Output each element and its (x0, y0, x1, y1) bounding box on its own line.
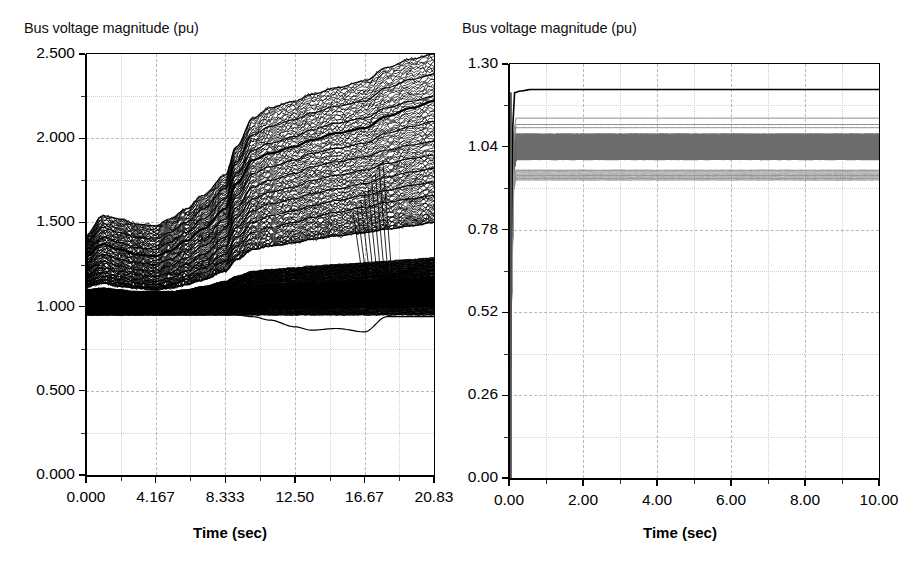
voltage-trace (509, 148, 879, 478)
voltage-trace (509, 158, 879, 478)
y-axis-tick-minor (81, 180, 85, 181)
voltage-trace (509, 138, 879, 478)
plot-frame-top (509, 63, 880, 64)
voltage-trace (509, 140, 879, 478)
voltage-trace (509, 147, 879, 478)
voltage-trace (509, 146, 879, 478)
voltage-trace (509, 150, 879, 478)
x-axis-tick (155, 477, 156, 483)
y-axis-tick-label: 0.78 (428, 220, 498, 238)
y-axis-tick (79, 138, 85, 139)
voltage-trace (509, 157, 879, 478)
voltage-trace (509, 159, 879, 478)
voltage-trace (509, 138, 879, 478)
voltage-trace (509, 149, 879, 478)
voltage-trace (509, 153, 879, 478)
voltage-trace (509, 153, 879, 478)
left-y-axis-title: Bus voltage magnitude (pu) (24, 20, 199, 36)
voltage-trace (509, 156, 879, 478)
voltage-trace (509, 159, 879, 478)
voltage-trace (509, 150, 879, 478)
voltage-trace (509, 146, 879, 478)
voltage-trace (509, 175, 879, 478)
voltage-trace (509, 142, 879, 478)
voltage-trace (509, 136, 879, 478)
x-axis-tick-minor (190, 477, 191, 481)
voltage-trace (509, 134, 879, 477)
voltage-trace (509, 156, 879, 478)
voltage-trace (509, 149, 879, 478)
figure-root: Bus voltage magnitude (pu) Time (sec) 0.… (0, 0, 920, 576)
y-axis-tick-label: 2.500 (5, 44, 75, 62)
y-axis-spine (85, 54, 87, 476)
voltage-trace (509, 154, 879, 478)
y-axis-tick-label: 1.04 (428, 137, 498, 155)
voltage-trace (509, 158, 879, 478)
voltage-trace (509, 144, 879, 478)
voltage-trace (509, 158, 879, 478)
voltage-trace (509, 155, 879, 478)
voltage-trace (509, 135, 879, 478)
x-axis-tick-minor (694, 480, 695, 484)
voltage-trace (509, 151, 879, 477)
x-axis-tick (85, 477, 86, 483)
x-axis-tick (364, 477, 365, 483)
voltage-trace (509, 153, 879, 478)
x-axis-tick-minor (620, 480, 621, 484)
voltage-trace (509, 142, 879, 478)
voltage-trace (509, 143, 879, 478)
x-axis-tick-label: 0.000 (46, 488, 126, 506)
voltage-trace (509, 138, 879, 478)
voltage-trace (509, 154, 879, 478)
voltage-trace (509, 140, 879, 478)
voltage-trace (509, 149, 879, 478)
y-axis-tick-label: 2.000 (5, 128, 75, 146)
voltage-trace (509, 138, 879, 478)
voltage-trace (509, 158, 879, 478)
y-axis-tick (79, 222, 85, 223)
voltage-trace (509, 151, 879, 478)
voltage-trace (509, 171, 879, 478)
voltage-trace (509, 143, 879, 478)
y-axis-tick (502, 312, 508, 313)
voltage-trace (509, 148, 879, 478)
y-axis-tick-label: 1.30 (428, 54, 498, 72)
left-x-axis-title: Time (sec) (0, 524, 460, 541)
x-axis-tick-label: 4.167 (116, 488, 196, 506)
voltage-trace (509, 137, 879, 478)
y-axis-tick (502, 395, 508, 396)
voltage-trace (509, 154, 879, 478)
voltage-trace (509, 146, 879, 477)
voltage-trace (509, 154, 879, 478)
voltage-trace (509, 170, 879, 478)
voltage-trace (509, 172, 879, 478)
y-axis-tick-label: 1.500 (5, 212, 75, 230)
y-axis-tick-minor (504, 271, 508, 272)
voltage-trace (509, 147, 879, 478)
voltage-trace (509, 174, 879, 478)
voltage-trace (509, 147, 879, 478)
x-axis-tick-minor (121, 477, 122, 481)
voltage-trace (509, 139, 879, 478)
y-axis-tick-minor (504, 105, 508, 106)
y-axis-tick-minor (81, 265, 85, 266)
voltage-trace (509, 159, 879, 478)
y-axis-tick-label: 0.00 (428, 468, 498, 486)
voltage-trace (509, 148, 879, 477)
voltage-trace (509, 152, 879, 477)
voltage-trace (509, 179, 879, 478)
voltage-trace (509, 149, 879, 478)
voltage-trace (509, 146, 879, 478)
voltage-trace (509, 149, 879, 477)
voltage-trace (509, 142, 879, 478)
voltage-trace (509, 155, 879, 478)
x-axis-tick-label: 8.333 (185, 488, 265, 506)
voltage-trace (509, 145, 879, 478)
voltage-trace (509, 157, 879, 478)
voltage-trace (509, 173, 879, 478)
voltage-trace (509, 134, 879, 478)
voltage-trace (509, 142, 879, 478)
voltage-trace (509, 145, 879, 478)
voltage-trace (509, 138, 879, 478)
voltage-trace (509, 153, 879, 478)
